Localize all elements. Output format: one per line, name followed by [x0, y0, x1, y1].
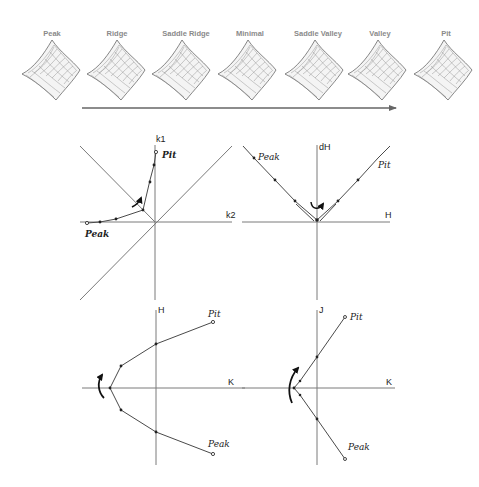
K-axis-label: K — [386, 377, 392, 387]
pit-label: Pit — [377, 160, 391, 170]
pit-branch-inner — [320, 204, 336, 221]
k1-axis-label: k1 — [156, 134, 166, 144]
surface-valley: Valley — [348, 29, 406, 100]
figure-canvas: Peak Ridge Saddle Ridge Minimal Saddle V… — [0, 0, 479, 487]
pit-branch — [317, 146, 390, 220]
H-axis-label: H — [385, 210, 392, 220]
surface-label-pit: Pit — [441, 29, 451, 38]
surface-ridge: Ridge — [87, 29, 145, 100]
rotation-arrow-icon — [99, 375, 104, 398]
peak-label: Peak — [347, 442, 370, 452]
surface-label-valley: Valley — [369, 29, 391, 38]
plot-H-K: H K Pit Peak — [82, 305, 245, 465]
pit-label: Pit — [161, 150, 177, 160]
plot-dH-H: dH H Peak Pit — [242, 142, 392, 300]
H-axis-label: H — [158, 305, 165, 315]
surface-label-ridge: Ridge — [107, 29, 128, 38]
k2-axis-label: k2 — [226, 210, 236, 220]
dH-axis-label: dH — [319, 142, 331, 152]
surface-minimal: Minimal — [218, 29, 276, 100]
surface-saddle-ridge: Saddle Ridge — [152, 29, 210, 100]
peak-branch-inner — [296, 204, 314, 221]
peak-label: Peak — [257, 152, 280, 162]
peak-label: Peak — [84, 229, 109, 239]
surface-pit: Pit — [414, 29, 472, 100]
J-axis-label: J — [319, 305, 324, 315]
surface-label-peak: Peak — [43, 29, 61, 38]
surface-sequence: Peak Ridge Saddle Ridge Minimal Saddle V… — [22, 29, 472, 108]
K-axis-label: K — [228, 377, 234, 387]
peak-label: Peak — [207, 439, 230, 449]
surface-label-saddle-ridge: Saddle Ridge — [162, 29, 210, 38]
surface-label-minimal: Minimal — [236, 29, 264, 38]
pit-label: Pit — [207, 309, 221, 319]
pit-label: Pit — [349, 312, 363, 322]
surface-saddle-valley: Saddle Valley — [285, 29, 343, 100]
surface-label-saddle-valley: Saddle Valley — [294, 29, 343, 38]
surface-peak: Peak — [22, 29, 80, 100]
plot-J-K: J K Pit Peak — [242, 305, 395, 465]
plot-k1-k2: k1 k2 Pit Peak — [80, 134, 236, 300]
